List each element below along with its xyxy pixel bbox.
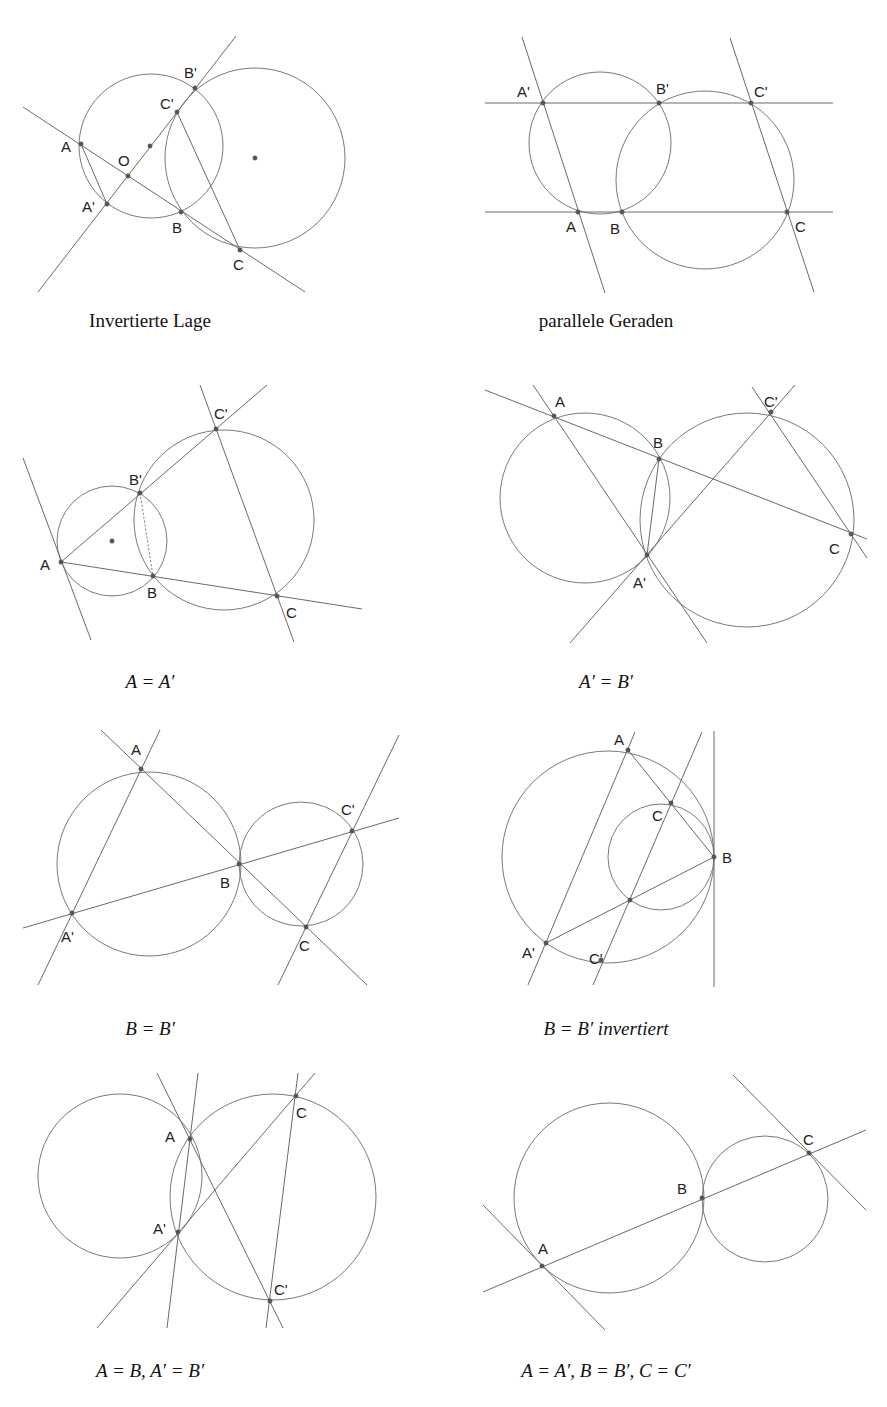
caption-invertierte-lage: Invertierte Lage: [0, 310, 360, 332]
caption-parallele-geraden: parallele Geraden: [396, 310, 816, 332]
point-A: [540, 1264, 544, 1268]
circle: [640, 413, 854, 627]
line: [157, 1073, 283, 1328]
point-label: C: [829, 540, 840, 557]
point-label: B: [147, 584, 157, 601]
point-A: [576, 210, 580, 214]
circle: [529, 72, 671, 214]
point-A-prime: [176, 1230, 180, 1234]
point-C: [849, 532, 853, 536]
circle: [616, 91, 794, 269]
figure-sheet: AOA'BCC'B'A'B'C'ABCAB'BC'CABC'CA'ABC'CA'…: [0, 0, 887, 1407]
caption-b-equals-b-prime: B = B′: [0, 1018, 360, 1040]
point-C: [304, 925, 308, 929]
point-B-prime: [193, 86, 197, 90]
point-C: [669, 801, 673, 805]
figure-invertierte-lage: AOA'BCC'B': [23, 36, 345, 292]
center-point: [110, 539, 114, 543]
point-A: [626, 748, 630, 752]
circle: [134, 430, 314, 610]
point-C: [807, 1151, 811, 1155]
line: [23, 818, 399, 928]
line: [61, 385, 267, 562]
center-point: [148, 144, 152, 148]
point-label: A': [517, 83, 530, 100]
line: [533, 385, 707, 643]
figure-b-gleich-b-strich-invertiert: ACBA'C': [502, 731, 732, 987]
point-label: A: [614, 731, 624, 748]
line: [485, 390, 867, 539]
point-B: [712, 855, 716, 859]
circle: [57, 772, 241, 956]
figure-a-strich-gleich-b-strich: ABC'CA': [485, 385, 867, 643]
point-A-prime: [70, 911, 74, 915]
point-label: A': [61, 928, 74, 945]
point-C-prime: [769, 410, 773, 414]
point-label: C: [233, 256, 244, 273]
line: [278, 735, 399, 985]
line: [647, 459, 659, 555]
point-B: [179, 210, 183, 214]
point-C-prime: [350, 829, 354, 833]
line: [177, 112, 240, 250]
line: [23, 107, 305, 292]
figure-b-gleich-b-strich: ABC'CA': [23, 730, 399, 985]
point-label: C': [589, 950, 603, 967]
caption-b-equals-b-prime-inverted: B = B′ invertiert: [396, 1018, 816, 1040]
point-B-prime: [138, 491, 142, 495]
line: [522, 37, 605, 293]
point-A-prime: [645, 553, 649, 557]
line: [528, 732, 635, 985]
center-point: [253, 156, 257, 160]
point-label: A': [82, 198, 95, 215]
line: [733, 1075, 866, 1210]
line: [483, 1205, 605, 1330]
line: [61, 562, 362, 609]
point-label: C': [214, 405, 228, 422]
point-A: [139, 767, 143, 771]
caption-a-equals-a-prime: A = A′: [0, 671, 360, 693]
point-A-prime: [105, 202, 109, 206]
point-label: A': [633, 574, 646, 591]
point-C-prime: [214, 427, 218, 431]
point-B: [620, 210, 624, 214]
point-label: C': [274, 1281, 288, 1298]
point-A: [552, 414, 556, 418]
point-label: B: [610, 220, 620, 237]
point-label: C: [286, 604, 297, 621]
dotted-line: [140, 493, 153, 576]
point-label: A: [566, 218, 576, 235]
circle: [239, 802, 363, 926]
point-C-prime: [175, 110, 179, 114]
point-label: C': [341, 801, 355, 818]
point-label: B: [677, 1180, 687, 1197]
point-label: O: [118, 152, 130, 169]
point-C-prime: [268, 1299, 272, 1303]
figure-a-gleich-b-a-strich-gleich-b-strich: AA'CC': [38, 1073, 376, 1328]
point-label: A: [538, 1240, 548, 1257]
figure-parallele-geraden: A'B'C'ABC: [485, 37, 833, 293]
point-A: [59, 560, 63, 564]
point-label: C: [652, 807, 663, 824]
point-label: A: [165, 1128, 175, 1145]
point-C-prime: [749, 101, 753, 105]
point-label: B': [129, 471, 142, 488]
point-label: A': [153, 1220, 166, 1237]
point-B: [657, 457, 661, 461]
point-C: [785, 210, 789, 214]
center-point: [628, 898, 632, 902]
line: [570, 385, 795, 643]
point-B: [151, 574, 155, 578]
point-label: C: [296, 1104, 307, 1121]
point-label: B: [722, 849, 732, 866]
line: [593, 732, 702, 985]
point-C: [238, 248, 242, 252]
point-A-prime: [544, 941, 548, 945]
point-label: C': [160, 95, 174, 112]
point-label: C: [299, 937, 310, 954]
point-O: [126, 174, 130, 178]
point-label: A: [555, 393, 565, 410]
caption-a-equals-b-a-prime-equals-b-prime: A = B, A′ = B′: [0, 1360, 360, 1382]
point-label: A': [522, 944, 535, 961]
point-B: [237, 862, 241, 866]
